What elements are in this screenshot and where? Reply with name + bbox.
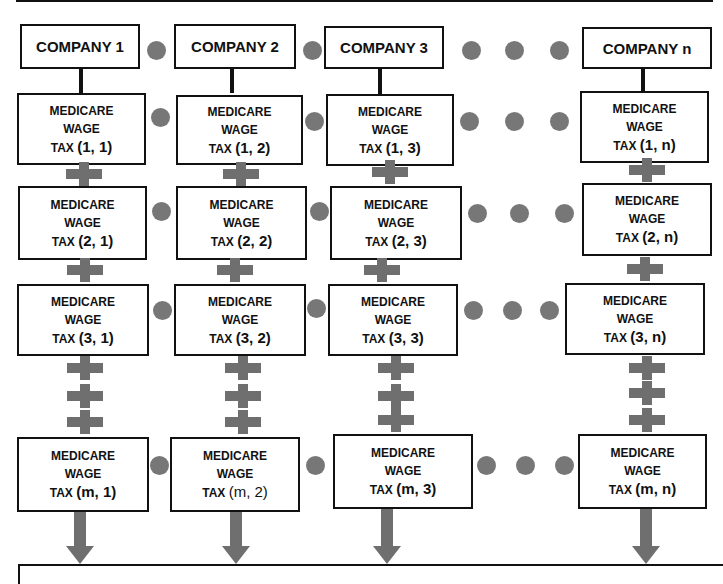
down-arrow-icon — [66, 512, 94, 564]
cell-line: MEDICARE — [361, 293, 425, 311]
plus-icon — [364, 258, 400, 282]
plus-icon — [629, 356, 665, 380]
plus-icon — [627, 257, 663, 281]
cell-line: TAX (m, 1) — [50, 483, 116, 502]
medicare-cell-3-2: MEDICARE WAGE TAX (3, 2) — [174, 284, 306, 356]
medicare-cell-m-3: MEDICARE WAGE TAX (m, 3) — [333, 434, 473, 509]
plus-icon — [223, 162, 259, 186]
summary-box — [18, 564, 723, 584]
cell-line: TAX (2, 3) — [365, 232, 426, 251]
cell-line: WAGE — [617, 310, 654, 328]
medicare-cell-2-3: MEDICARE WAGE TAX (2, 3) — [330, 186, 462, 260]
cell-line: WAGE — [217, 465, 254, 483]
plus-icon — [378, 356, 414, 380]
cell-line: TAX (3, 2) — [209, 329, 270, 348]
plus-icon — [629, 381, 665, 405]
ellipsis-dot-icon — [510, 204, 529, 223]
company-1-box: COMPANY 1 — [20, 24, 140, 69]
plus-icon — [67, 258, 103, 282]
company-label: COMPANY 3 — [340, 39, 428, 56]
cell-line: MEDICARE — [49, 102, 113, 120]
plus-icon — [67, 410, 103, 434]
cell-line: MEDICARE — [209, 196, 273, 214]
cell-line: TAX (3, 3) — [362, 329, 423, 348]
cell-line: WAGE — [629, 210, 666, 228]
ellipsis-dot-icon — [151, 108, 170, 127]
cell-line: WAGE — [385, 462, 422, 480]
cell-line: WAGE — [378, 214, 415, 232]
plus-icon — [629, 158, 665, 182]
plus-icon — [225, 384, 261, 408]
ellipsis-dot-icon — [550, 41, 569, 60]
ellipsis-dot-icon — [503, 301, 522, 320]
company-2-box: COMPANY 2 — [174, 24, 296, 69]
plus-icon — [217, 258, 253, 282]
down-arrow-icon — [632, 509, 660, 564]
top-border-line — [16, 0, 713, 2]
cell-line: MEDICARE — [610, 444, 674, 462]
medicare-cell-1-n: MEDICARE WAGE TAX (1, n) — [580, 91, 709, 163]
company-label: COMPANY n — [603, 40, 692, 57]
medicare-cell-1-1: MEDICARE WAGE TAX (1, 1) — [17, 93, 146, 165]
ellipsis-dot-icon — [505, 41, 524, 60]
down-arrow-icon — [373, 509, 401, 564]
cell-line: TAX (3, 1) — [52, 329, 113, 348]
ellipsis-dot-icon — [153, 301, 172, 320]
cell-line: WAGE — [63, 120, 100, 138]
cell-line: TAX (m, 2) — [202, 483, 268, 502]
ellipsis-dot-icon — [555, 204, 574, 223]
company-label: COMPANY 1 — [36, 38, 124, 55]
ellipsis-dot-icon — [310, 202, 329, 221]
connector-line — [378, 69, 382, 95]
cell-line: WAGE — [222, 311, 259, 329]
plus-icon — [372, 160, 408, 184]
ellipsis-dot-icon — [150, 456, 169, 475]
cell-line: MEDICARE — [371, 444, 435, 462]
cell-line: MEDICARE — [208, 293, 272, 311]
cell-line: WAGE — [65, 465, 102, 483]
medicare-cell-1-3: MEDICARE WAGE TAX (1, 3) — [326, 94, 454, 166]
medicare-cell-3-3: MEDICARE WAGE TAX (3, 3) — [328, 284, 458, 356]
ellipsis-dot-icon — [147, 41, 166, 60]
cell-line: MEDICARE — [615, 192, 679, 210]
cell-line: WAGE — [626, 118, 663, 136]
cell-line: MEDICARE — [51, 293, 115, 311]
cell-line: TAX (1, n) — [613, 136, 675, 155]
cell-line: TAX (2, 2) — [211, 232, 272, 251]
plus-icon — [378, 384, 414, 408]
medicare-cell-1-2: MEDICARE WAGE TAX (1, 2) — [176, 95, 303, 165]
company-label: COMPANY 2 — [191, 38, 279, 55]
cell-line: MEDICARE — [612, 100, 676, 118]
connector-line — [79, 69, 83, 93]
cell-line: MEDICARE — [203, 447, 267, 465]
medicare-cell-m-n: MEDICARE WAGE TAX (m, n) — [578, 434, 707, 509]
medicare-cell-m-2: MEDICARE WAGE TAX (m, 2) — [170, 437, 300, 512]
cell-line: TAX (1, 3) — [359, 139, 420, 158]
ellipsis-dot-icon — [516, 456, 535, 475]
ellipsis-dot-icon — [550, 112, 569, 131]
ellipsis-dot-icon — [555, 456, 574, 475]
ellipsis-dot-icon — [305, 112, 324, 131]
plus-icon — [225, 356, 261, 380]
cell-line: MEDICARE — [603, 292, 667, 310]
cell-line: TAX (2, 1) — [52, 232, 113, 251]
company-3-box: COMPANY 3 — [324, 26, 444, 69]
cell-line: TAX (m, n) — [609, 480, 676, 499]
medicare-cell-2-1: MEDICARE WAGE TAX (2, 1) — [18, 186, 147, 260]
medicare-cell-3-n: MEDICARE WAGE TAX (3, n) — [565, 283, 705, 355]
cell-line: TAX (m, 3) — [370, 480, 436, 499]
cell-line: MEDICARE — [358, 103, 422, 121]
cell-line: MEDICARE — [50, 196, 114, 214]
company-n-box: COMPANY n — [582, 27, 712, 69]
cell-line: TAX (1, 1) — [51, 138, 112, 157]
plus-icon — [378, 408, 414, 432]
plus-icon — [66, 162, 102, 186]
ellipsis-dot-icon — [306, 456, 325, 475]
ellipsis-dot-icon — [303, 41, 322, 60]
ellipsis-dot-icon — [462, 41, 481, 60]
ellipsis-dot-icon — [307, 299, 326, 318]
cell-line: WAGE — [223, 214, 260, 232]
cell-line: WAGE — [375, 311, 412, 329]
cell-line: MEDICARE — [51, 447, 115, 465]
cell-line: TAX (3, n) — [604, 328, 666, 347]
